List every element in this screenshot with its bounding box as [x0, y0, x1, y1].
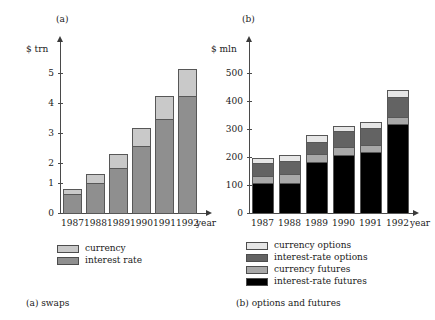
bar-1988[interactable] [279, 155, 301, 214]
legend-swaps: currency interest rate [57, 243, 142, 267]
bar-segment-currency-futures [334, 147, 354, 155]
y-tick [247, 129, 252, 130]
legend-label-currency: currency [85, 244, 126, 253]
bar-segment-interest-rate-options [388, 97, 408, 117]
bar-1987[interactable] [252, 158, 274, 214]
bar-segment-interest-rate-futures [361, 152, 381, 213]
y-axis-line [60, 42, 61, 214]
bar-segment-interest-rate [156, 119, 173, 213]
legend-label-interest-rate-futures: interest-rate futures [274, 277, 367, 286]
y-axis-unit-label: $ trn [26, 44, 48, 54]
y-tick-label: 500 [217, 68, 243, 78]
legend-swatch-interest-rate-futures [246, 278, 268, 286]
bar-1987[interactable] [63, 189, 82, 214]
bar-segment-currency [179, 70, 196, 96]
bar-segment-interest-rate [64, 194, 81, 213]
legend-label-currency-futures: currency futures [274, 265, 350, 274]
x-axis-arrow-icon [206, 210, 212, 216]
legend-options-futures: currency options interest-rate options c… [246, 240, 368, 288]
bar-1990[interactable] [333, 126, 355, 214]
bar-segment-currency-futures [280, 174, 300, 183]
y-tick [58, 73, 63, 74]
bar-segment-interest-rate-options [280, 161, 300, 175]
y-tick [58, 183, 63, 184]
y-tick-label: 100 [217, 180, 243, 190]
panel-tag-b: (b) [242, 14, 255, 24]
y-tick [58, 133, 63, 134]
bar-segment-interest-rate [87, 183, 104, 213]
legend-swatch-currency-futures [246, 266, 268, 274]
bar-segment-currency-futures [388, 117, 408, 124]
legend-item-currency-futures[interactable]: currency futures [246, 264, 368, 275]
y-tick-label: 200 [217, 152, 243, 162]
y-tick [58, 103, 63, 104]
legend-item-interest-rate[interactable]: interest rate [57, 255, 142, 266]
bar-segment-interest-rate-options [334, 131, 354, 146]
legend-item-interest-rate-options[interactable]: interest-rate options [246, 252, 368, 263]
bar-segment-interest-rate [133, 146, 150, 213]
y-tick-label: 400 [217, 96, 243, 106]
y-tick-label: 0 [28, 208, 54, 218]
bar-segment-interest-rate-futures [334, 155, 354, 213]
bar-1992[interactable] [387, 90, 409, 214]
chart-panel-swaps: (a) $ trn 5 4 3 2 1 0 [0, 0, 217, 320]
x-axis-arrow-icon [413, 210, 419, 216]
y-tick [58, 163, 63, 164]
legend-label-interest-rate: interest rate [85, 256, 142, 265]
y-tick-label: 0 [217, 208, 243, 218]
y-axis-unit-label: $ mln [211, 44, 237, 54]
x-axis-name: year [196, 218, 216, 228]
bar-segment-interest-rate-options [253, 163, 273, 176]
bar-1991[interactable] [360, 122, 382, 214]
bar-1991[interactable] [155, 96, 174, 214]
bar-1989[interactable] [109, 154, 128, 214]
bar-segment-interest-rate-futures [388, 124, 408, 213]
legend-swatch-interest-rate-options [246, 254, 268, 262]
panel-caption-b: (b) options and futures [236, 298, 341, 308]
legend-swatch-currency [57, 245, 79, 253]
y-tick-label: 1 [28, 178, 54, 188]
legend-swatch-interest-rate [57, 257, 79, 265]
legend-label-interest-rate-options: interest-rate options [274, 253, 368, 262]
legend-label-currency-options: currency options [274, 241, 351, 250]
panel-tag-a: (a) [56, 14, 68, 24]
bar-segment-currency-futures [307, 154, 327, 162]
legend-item-interest-rate-futures[interactable]: interest-rate futures [246, 276, 368, 287]
bar-segment-interest-rate-futures [307, 162, 327, 213]
bar-1988[interactable] [86, 174, 105, 214]
bar-1989[interactable] [306, 135, 328, 214]
legend-swatch-currency-options [246, 242, 268, 250]
bar-segment-interest-rate-futures [280, 183, 300, 213]
y-axis-line [249, 42, 250, 214]
legend-item-currency-options[interactable]: currency options [246, 240, 368, 251]
y-tick-label: 2 [28, 158, 54, 168]
panel-caption-a: (a) swaps [26, 298, 69, 308]
bar-segment-currency [110, 155, 127, 168]
bar-segment-interest-rate [179, 96, 196, 213]
y-tick [247, 101, 252, 102]
bar-segment-currency-futures [361, 145, 381, 152]
bar-1992[interactable] [178, 69, 197, 214]
bar-segment-currency [87, 175, 104, 183]
bar-segment-interest-rate-options [307, 142, 327, 154]
y-tick [247, 73, 252, 74]
y-tick-label: 3 [28, 128, 54, 138]
chart-panel-options-futures: (b) $ mln 500 400 300 200 100 0 [218, 0, 435, 320]
y-tick-label: 5 [28, 68, 54, 78]
x-axis-name: year [410, 218, 430, 228]
bar-segment-interest-rate-futures [253, 183, 273, 213]
legend-item-currency[interactable]: currency [57, 243, 142, 254]
bar-segment-currency [133, 129, 150, 146]
bar-segment-currency [156, 97, 173, 119]
y-tick-label: 300 [217, 124, 243, 134]
bar-segment-interest-rate [110, 168, 127, 213]
bar-segment-interest-rate-options [361, 128, 381, 144]
bar-1990[interactable] [132, 128, 151, 214]
y-tick-label: 4 [28, 98, 54, 108]
